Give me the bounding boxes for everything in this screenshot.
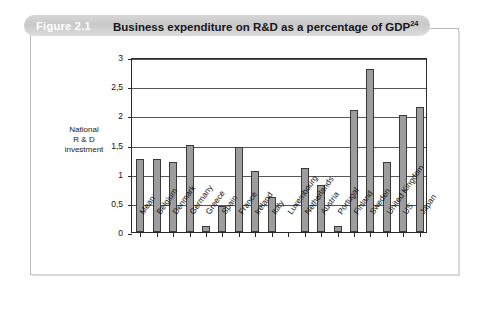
x-tick-mark [206,232,207,237]
x-tick-mark [173,232,174,237]
figure-title-superscript: 24 [410,19,418,28]
y-axis-title-line-1: National [53,125,115,135]
figure-title: Business expenditure on R&D as a percent… [113,19,419,33]
figure-title-text: Business expenditure on R&D as a percent… [113,20,410,32]
x-tick-mark [288,232,289,237]
x-tick-mark [420,232,421,237]
y-tick-label: 1,5 [93,141,123,151]
x-tick-mark [321,232,322,237]
x-tick-mark [354,232,355,237]
x-tick-mark [239,232,240,237]
x-tick-mark [338,232,339,237]
x-tick-mark [387,232,388,237]
x-tick-mark [157,232,158,237]
bar[interactable] [153,159,161,232]
chart-area: National R & D investment 00,511,522,53 … [31,29,460,276]
y-tick-mark [128,234,132,235]
y-tick-label: 0 [93,228,123,238]
x-tick-mark [222,232,223,237]
y-tick-label: 3 [93,53,123,63]
bar[interactable] [136,159,144,232]
figure-frame: National R & D investment 00,511,522,53 … [30,28,459,275]
figure-header-banner: Figure 2.1 Business expenditure on R&D a… [24,15,430,36]
x-tick-mark [272,232,273,237]
x-tick-mark [190,232,191,237]
y-tick-label: 2,5 [93,82,123,92]
bar[interactable] [235,147,243,232]
x-tick-mark [140,232,141,237]
x-tick-mark [370,232,371,237]
x-tick-mark [305,232,306,237]
y-tick-label: 1 [93,170,123,180]
y-tick-label: 2 [93,111,123,121]
figure-number-badge: Figure 2.1 [36,20,91,32]
x-tick-mark [403,232,404,237]
x-tick-mark [255,232,256,237]
y-tick-label: 0,5 [93,199,123,209]
